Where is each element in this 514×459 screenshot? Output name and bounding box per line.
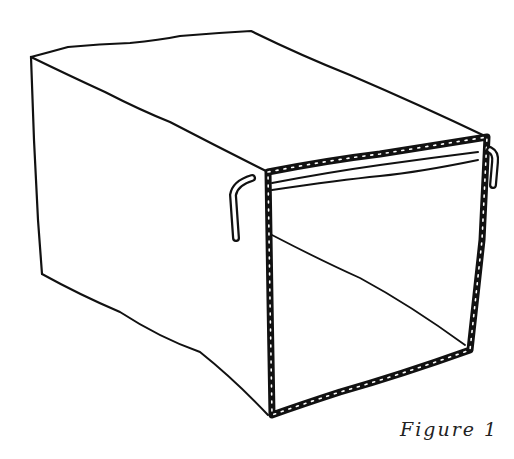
box-inner-floor-line	[272, 235, 465, 345]
left-handle-icon	[233, 178, 252, 238]
front-frame	[268, 137, 487, 415]
right-handle-icon	[490, 150, 495, 185]
box-top-edge	[31, 31, 487, 137]
figure-caption: Figure 1	[400, 418, 498, 440]
box-bottom-edge	[42, 274, 268, 415]
box-left-vertical-edge	[31, 57, 42, 274]
box-top-left-edge	[31, 57, 268, 172]
box-illustration	[0, 0, 514, 459]
